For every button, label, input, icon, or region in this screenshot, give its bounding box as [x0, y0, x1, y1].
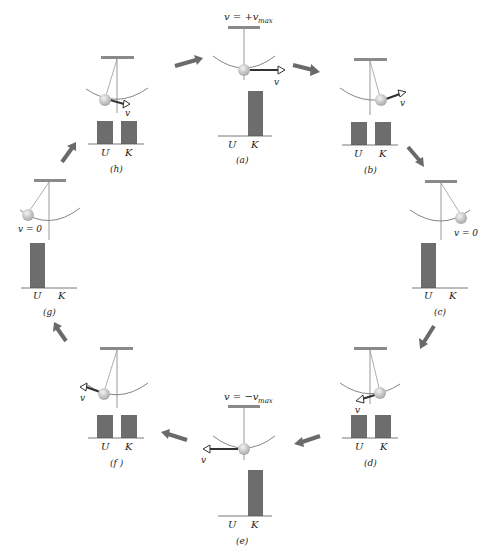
- panel-label: (a): [236, 155, 249, 165]
- svg-text:U: U: [33, 290, 42, 301]
- bob: [238, 64, 250, 76]
- svg-text:K: K: [379, 441, 388, 452]
- svg-text:U: U: [101, 441, 110, 452]
- svg-text:K: K: [124, 147, 133, 158]
- svg-text:K: K: [57, 290, 66, 301]
- bar-K: [375, 122, 391, 145]
- svg-text:U: U: [228, 519, 237, 530]
- svg-text:v: v: [80, 393, 85, 403]
- svg-text:K: K: [250, 519, 259, 530]
- svg-text:U: U: [355, 441, 364, 452]
- svg-text:K: K: [250, 139, 259, 150]
- svg-text:U: U: [101, 147, 110, 158]
- panel-label: (b): [364, 165, 377, 175]
- panel-label: (h): [110, 164, 123, 174]
- svg-text:max: max: [258, 397, 273, 405]
- svg-text:K: K: [124, 441, 133, 452]
- panel-f: v U K (f ): [80, 347, 148, 468]
- svg-text:K: K: [448, 290, 457, 301]
- panel-b: v U K (b): [340, 58, 406, 175]
- panel-a: v = +v max v U K (a): [213, 11, 285, 165]
- bar-U: [351, 122, 367, 145]
- panel-label: (g): [43, 307, 56, 317]
- panel-label: (f ): [110, 458, 124, 468]
- svg-text:U: U: [354, 148, 363, 159]
- panel-label: (d): [364, 458, 377, 468]
- panel-g: v = 0 U K (g): [18, 179, 80, 317]
- panel-h: v U K (h): [86, 56, 148, 174]
- panel-d: v U K (d): [340, 347, 400, 468]
- svg-text:v: v: [355, 405, 360, 415]
- bar-K: [248, 91, 263, 136]
- svg-text:U: U: [424, 290, 433, 301]
- svg-text:v = 0: v = 0: [454, 228, 478, 238]
- svg-text:v = −v: v = −v: [224, 391, 259, 402]
- ceiling: [228, 26, 260, 29]
- panel-e: v = −v max v U K (e): [201, 391, 275, 546]
- panel-label: (c): [434, 307, 447, 317]
- panel-label: (e): [236, 536, 249, 546]
- svg-text:v: v: [125, 108, 130, 118]
- svg-text:v: v: [201, 455, 206, 465]
- svg-text:v = 0: v = 0: [18, 224, 42, 234]
- panel-c: v = 0 U K (c): [410, 180, 478, 317]
- svg-text:v: v: [400, 98, 405, 108]
- velocity-label: v = +v: [224, 11, 259, 22]
- pendulum-energy-diagram: v = +v max v U K (a) v U K (b): [0, 0, 492, 553]
- svg-text:v: v: [274, 77, 279, 87]
- svg-text:K: K: [378, 148, 387, 159]
- bar-U: [421, 243, 436, 288]
- svg-text:U: U: [228, 139, 237, 150]
- velocity-sub: max: [258, 17, 273, 25]
